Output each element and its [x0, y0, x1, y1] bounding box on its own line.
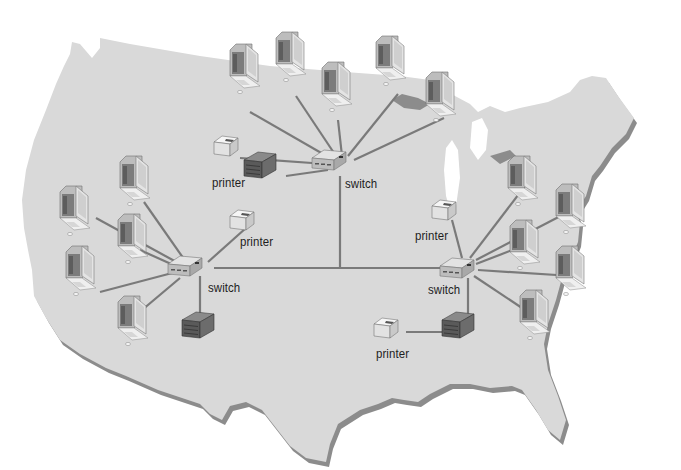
network-diagram: switch switch switch printer printer pri… — [0, 0, 681, 470]
us-map — [0, 0, 681, 470]
printer-icon — [230, 210, 254, 230]
switch-label-east: switch — [428, 282, 460, 297]
printer-icon — [374, 318, 398, 338]
switch-label-north: switch — [345, 176, 377, 191]
printer-icon — [214, 136, 238, 156]
switch-label-west: switch — [208, 280, 240, 295]
printer-label-east: printer — [415, 228, 448, 243]
map-body — [22, 38, 634, 462]
printer-label-west: printer — [240, 234, 273, 249]
printer-label-north: printer — [212, 175, 245, 190]
printer-icon — [432, 200, 456, 220]
printer-label-south: printer — [376, 346, 409, 361]
